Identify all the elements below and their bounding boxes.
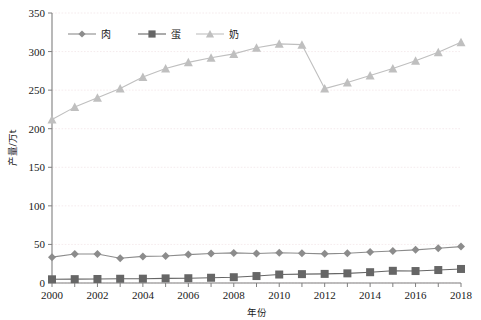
x-tick-label: 2000 [41,289,64,301]
data-point-marker-square [230,273,238,281]
data-point-marker-square [48,275,56,283]
gridlines-group [52,13,461,283]
data-point-marker-diamond [71,250,79,258]
data-point-marker-square [116,275,124,283]
data-point-marker-diamond [78,30,85,37]
data-point-marker-diamond [116,254,124,262]
y-tick-label: 50 [34,238,46,250]
x-tick-label: 2014 [359,289,382,301]
data-point-marker-square [71,275,79,283]
data-point-marker-square [184,274,192,282]
data-point-marker-triangle [161,64,170,73]
data-point-marker-diamond [184,251,192,259]
data-point-marker-square [93,275,101,283]
legend-label: 蛋 [171,29,181,40]
chart-container: 050100150200250300350 200020022004200620… [0,0,481,320]
x-tick-labels: 2000200220042006200820102012201420162018 [41,289,473,301]
y-tick-label: 300 [29,46,46,58]
data-point-marker-diamond [253,249,261,257]
data-point-marker-triangle [366,71,375,80]
data-point-marker-diamond [139,252,147,260]
data-point-marker-diamond [93,250,101,258]
legend-item-肉[interactable]: 肉 [68,28,111,40]
y-tick-label: 200 [29,123,46,135]
legend-item-蛋[interactable]: 蛋 [138,29,181,40]
data-point-marker-diamond [412,246,420,254]
data-point-marker-square [275,271,283,279]
legend-label: 肉 [101,28,111,40]
data-point-marker-square [162,274,170,282]
y-tick-label: 350 [29,7,46,19]
data-series-group [48,38,466,283]
x-tick-label: 2008 [223,289,246,301]
data-point-marker-triangle [70,103,79,112]
data-point-marker-triangle [116,84,125,93]
data-point-marker-square [148,30,155,37]
data-point-marker-triangle [320,84,329,93]
x-tick-label: 2010 [268,289,291,301]
y-tick-labels: 050100150200250300350 [29,7,46,289]
data-point-marker-square [298,270,306,278]
data-point-marker-square [253,272,261,280]
series-diamond [48,243,465,263]
y-tick-label: 100 [29,200,46,212]
data-point-marker-diamond [162,252,170,260]
series-triangle [48,38,466,124]
legend-item-奶[interactable]: 奶 [196,29,239,40]
data-point-marker-square [207,274,215,282]
x-tick-label: 2018 [450,289,473,301]
data-point-marker-square [457,265,465,273]
axes-group [48,13,461,287]
data-point-marker-diamond [298,249,306,257]
x-tick-label: 2004 [132,289,155,301]
data-point-marker-diamond [321,250,329,258]
y-tick-label: 150 [29,161,46,173]
data-point-marker-diamond [48,253,56,261]
x-axis-title: 年份 [247,307,267,318]
series-line [52,42,461,119]
x-tick-label: 2006 [177,289,200,301]
data-point-marker-square [343,269,351,277]
data-point-marker-diamond [389,247,397,255]
data-point-marker-triangle [93,93,102,102]
data-point-marker-square [366,268,374,276]
data-point-marker-triangle [388,64,397,73]
data-point-marker-triangle [343,78,352,87]
data-point-marker-diamond [434,244,442,252]
data-point-marker-triangle [138,73,147,82]
data-point-marker-triangle [457,38,466,47]
chart-legend: 肉蛋奶 [68,28,239,40]
data-point-marker-square [139,275,147,283]
data-point-marker-triangle [48,115,57,124]
data-point-marker-diamond [457,243,465,251]
data-point-marker-square [321,270,329,278]
data-point-marker-square [412,267,420,275]
y-tick-label: 250 [29,84,46,96]
x-tick-label: 2016 [405,289,428,301]
legend-label: 奶 [229,29,239,40]
data-point-marker-triangle [411,56,420,65]
data-point-marker-square [389,267,397,275]
y-tick-label: 0 [40,277,46,289]
data-point-marker-diamond [275,249,283,257]
x-tick-label: 2002 [86,289,108,301]
data-point-marker-diamond [230,249,238,257]
y-axis-title: 产量/万t [7,129,18,166]
data-point-marker-diamond [343,249,351,257]
series-square [48,265,465,283]
data-point-marker-triangle [434,48,443,57]
x-tick-label: 2012 [314,289,336,301]
data-point-marker-triangle [229,49,238,58]
data-point-marker-diamond [366,248,374,256]
data-point-marker-square [434,266,442,274]
line-chart: 050100150200250300350 200020022004200620… [0,0,481,320]
data-point-marker-diamond [207,250,215,258]
